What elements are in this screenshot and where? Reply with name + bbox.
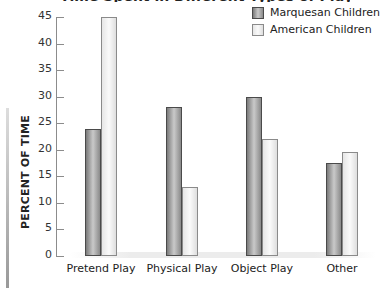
y-tick-label: 45 [22,10,52,22]
x-tick-label: Pretend Play [56,262,146,275]
bar-american [101,17,117,256]
x-tick-label: Object Play [217,262,307,275]
legend-item-american: American Children [252,21,380,38]
y-tick-label: 0 [22,249,52,261]
legend: Marquesan Children American Children [252,4,380,38]
y-tick-label: 10 [22,196,52,208]
bar-american [342,152,358,256]
y-tick [56,97,64,98]
y-tick [56,17,64,18]
bar-american [262,139,278,256]
bar-marquesan [85,129,101,256]
y-tick-label: 30 [22,90,52,102]
y-tick [56,44,64,45]
legend-label: Marquesan Children [270,6,380,19]
bar-marquesan [166,107,182,256]
y-axis-line [56,17,57,257]
y-tick [56,150,64,151]
y-tick-label: 15 [22,169,52,181]
x-tick-label: Physical Play [137,262,227,275]
y-tick [56,256,64,257]
chart-title-partial: Time Spent in Different Types of Play [60,0,350,2]
bar-marquesan [326,163,342,256]
legend-swatch-dark-icon [252,7,264,19]
x-tick-label: Other [297,262,386,275]
y-tick [56,123,64,124]
legend-label: American Children [270,23,372,36]
bar-american [182,187,198,256]
y-tick-label: 20 [22,143,52,155]
y-tick [56,229,64,230]
page-edge-rule [6,108,9,288]
y-tick-label: 35 [22,63,52,75]
y-tick-label: 25 [22,116,52,128]
legend-item-marquesan: Marquesan Children [252,4,380,21]
y-tick [56,176,64,177]
y-tick [56,70,64,71]
y-tick-label: 5 [22,222,52,234]
bar-marquesan [246,97,262,256]
legend-swatch-light-icon [252,24,264,36]
y-tick-label: 40 [22,37,52,49]
y-tick [56,203,64,204]
